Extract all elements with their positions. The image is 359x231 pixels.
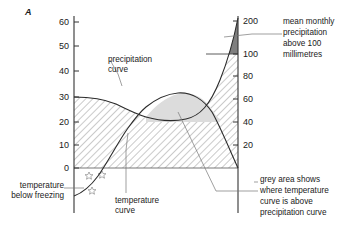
precipitation-hatched-area xyxy=(74,14,238,168)
frost-star-icon-2 xyxy=(98,171,106,178)
right-tick-40: 40 xyxy=(243,117,253,127)
heavy-precipitation-label-line2: precipitation xyxy=(283,28,328,37)
right-tick-100: 100 xyxy=(243,49,258,59)
right-tick-80: 80 xyxy=(243,71,253,81)
annotation-heavy-precipitation: mean monthly precipitation above 100 mil… xyxy=(283,17,335,59)
right-tick-60: 60 xyxy=(243,94,253,104)
temperature-curve-label-line2: curve xyxy=(115,206,135,215)
right-tick-20: 20 xyxy=(243,140,253,150)
leader-heavy-precipitation xyxy=(224,34,282,37)
grey-area-label-line3: curve is above xyxy=(260,197,313,206)
annotation-temperature-curve: temperature curve xyxy=(115,196,160,215)
grey-area-label-line1: grey area shows xyxy=(260,175,320,184)
precipitation-curve-label-line1: precipitation xyxy=(108,55,153,64)
heavy-precipitation-label-line3: above 100 xyxy=(283,39,322,48)
climograph-figure: A xyxy=(0,0,359,231)
left-tick-50: 50 xyxy=(59,41,69,51)
right-tick-200: 200 xyxy=(243,16,258,26)
annotation-precipitation-curve: precipitation curve xyxy=(108,55,153,74)
left-tick-20: 20 xyxy=(59,117,69,127)
heavy-precipitation-area xyxy=(74,14,238,54)
left-tick-60: 60 xyxy=(59,17,69,27)
frost-star-icon-1 xyxy=(85,172,93,179)
left-tick-30: 30 xyxy=(59,92,69,102)
frost-star-markers xyxy=(85,171,106,194)
heavy-precipitation-label-line1: mean monthly xyxy=(283,17,335,26)
annotation-grey-area: grey area shows where temperature curve … xyxy=(259,175,329,217)
temperature-curve-label-line1: temperature xyxy=(115,196,160,205)
below-freezing-label-line1: temperature xyxy=(20,181,65,190)
frost-star-icon-3 xyxy=(88,187,96,194)
grey-area-label-line4: precipitation curve xyxy=(260,208,327,217)
left-tick-10: 10 xyxy=(59,140,69,150)
grey-area-label-line2: where temperature xyxy=(259,186,329,195)
precipitation-curve-label-line2: curve xyxy=(108,65,128,74)
left-tick-0: 0 xyxy=(64,163,69,173)
left-tick-40: 40 xyxy=(59,66,69,76)
heavy-precipitation-label-line4: millimetres xyxy=(283,50,322,59)
below-freezing-label-line2: below freezing xyxy=(11,191,64,200)
annotation-below-freezing: temperature below freezing xyxy=(11,181,64,200)
climate-graph-svg: 60 50 40 30 20 10 0 200 100 80 60 40 20 xyxy=(0,0,359,231)
